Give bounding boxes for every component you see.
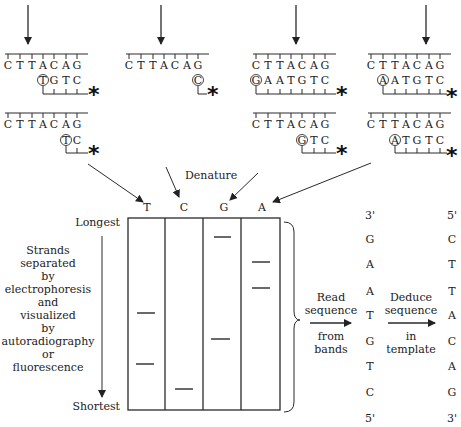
strand-a-1: CTTACAG AATGTC * (367, 54, 458, 109)
arrow-icon (88, 164, 143, 202)
arrow-icon (166, 167, 179, 197)
svg-text:A: A (401, 118, 411, 131)
svg-text:from: from (318, 330, 345, 343)
svg-text:G: G (194, 59, 203, 72)
label-asterisk-icon: * (446, 84, 458, 109)
svg-text:G: G (73, 59, 82, 72)
svg-text:T: T (16, 59, 24, 72)
svg-text:G: G (448, 386, 457, 399)
svg-text:C: C (413, 59, 421, 72)
svg-text:T: T (391, 59, 399, 72)
svg-text:A: A (365, 258, 375, 271)
svg-text:G: G (321, 118, 330, 131)
svg-text:G: G (298, 134, 307, 147)
svg-text:A: A (38, 118, 48, 131)
svg-text:in: in (406, 330, 417, 343)
label-asterisk-icon: * (88, 141, 100, 166)
svg-text:A: A (309, 59, 319, 72)
svg-text:Strands: Strands (26, 244, 70, 257)
svg-text:T: T (39, 74, 47, 87)
svg-text:template: template (386, 343, 435, 356)
svg-text:Deduce: Deduce (390, 291, 432, 304)
svg-text:G: G (413, 134, 422, 147)
svg-text:C: C (367, 59, 375, 72)
svg-text:3': 3' (365, 209, 375, 222)
svg-text:T: T (448, 258, 456, 271)
svg-text:A: A (365, 285, 375, 298)
svg-text:C: C (448, 233, 456, 246)
label-asterisk-icon: * (446, 143, 458, 168)
label-asterisk-icon: * (88, 82, 100, 107)
svg-text:sequence: sequence (385, 304, 438, 317)
svg-text:C: C (73, 134, 81, 147)
svg-text:A: A (378, 74, 388, 87)
svg-text:T: T (149, 59, 157, 72)
strand-t-1: CTTACAG TGTC * (4, 54, 100, 107)
svg-text:T: T (310, 134, 318, 147)
svg-text:C: C (366, 386, 374, 399)
svg-text:T: T (402, 134, 410, 147)
lane-label-t: T (143, 201, 151, 214)
svg-text:G: G (366, 233, 375, 246)
svg-text:A: A (424, 59, 434, 72)
arrow-icon (273, 163, 371, 202)
svg-text:A: A (182, 59, 192, 72)
svg-text:bands: bands (314, 343, 348, 356)
svg-text:A: A (390, 134, 400, 147)
strand-t-2: CTTACAG TC * (4, 113, 100, 166)
svg-text:C: C (413, 118, 421, 131)
template-bases: CTTACAG (4, 59, 82, 72)
svg-text:C: C (321, 74, 329, 87)
svg-text:G: G (436, 118, 445, 131)
svg-text:T: T (425, 134, 433, 147)
svg-text:or: or (42, 348, 55, 361)
lane-label-g: G (220, 201, 229, 214)
strand-g-2: CTTACAG GTC * (252, 113, 348, 166)
svg-text:autoradiography: autoradiography (2, 335, 96, 348)
lane-label-a: A (257, 201, 267, 214)
svg-text:C: C (321, 134, 329, 147)
svg-text:separated: separated (20, 257, 76, 270)
svg-text:C: C (367, 118, 375, 131)
svg-text:5': 5' (365, 412, 375, 425)
svg-text:T: T (62, 134, 70, 147)
svg-text:G: G (252, 74, 261, 87)
svg-text:electrophoresis: electrophoresis (5, 283, 92, 296)
svg-text:A: A (447, 309, 457, 322)
svg-text:A: A (61, 59, 71, 72)
svg-text:C: C (436, 74, 444, 87)
svg-text:fluorescence: fluorescence (13, 361, 84, 374)
svg-text:T: T (276, 59, 284, 72)
svg-text:sequence: sequence (305, 304, 358, 317)
svg-text:T: T (402, 74, 410, 87)
svg-text:C: C (298, 118, 306, 131)
svg-text:T: T (425, 74, 433, 87)
svg-text:T: T (276, 118, 284, 131)
svg-text:C: C (50, 118, 58, 131)
svg-text:T: T (28, 59, 36, 72)
svg-text:A: A (401, 59, 411, 72)
denature-arrows: Denature (88, 163, 371, 202)
svg-text:C: C (50, 59, 58, 72)
svg-text:A: A (447, 360, 457, 373)
svg-text:and: and (38, 296, 59, 309)
lane-label-c: C (180, 201, 188, 214)
svg-text:by: by (41, 270, 55, 283)
svg-text:A: A (309, 118, 319, 131)
svg-text:3': 3' (447, 412, 457, 425)
svg-text:T: T (287, 74, 295, 87)
brace-icon (284, 222, 300, 412)
svg-text:A: A (38, 59, 48, 72)
longest-label: Longest (75, 216, 120, 229)
svg-text:T: T (62, 74, 70, 87)
svg-text:Read: Read (317, 291, 345, 304)
svg-text:A: A (424, 118, 434, 131)
svg-text:C: C (298, 59, 306, 72)
svg-text:T: T (310, 74, 318, 87)
svg-text:T: T (448, 285, 456, 298)
template-sequence-column: 5' C T T A C A G 3' (447, 209, 457, 425)
svg-text:T: T (264, 59, 272, 72)
svg-text:5': 5' (447, 209, 457, 222)
shortest-label: Shortest (73, 400, 121, 413)
svg-text:A: A (286, 59, 296, 72)
